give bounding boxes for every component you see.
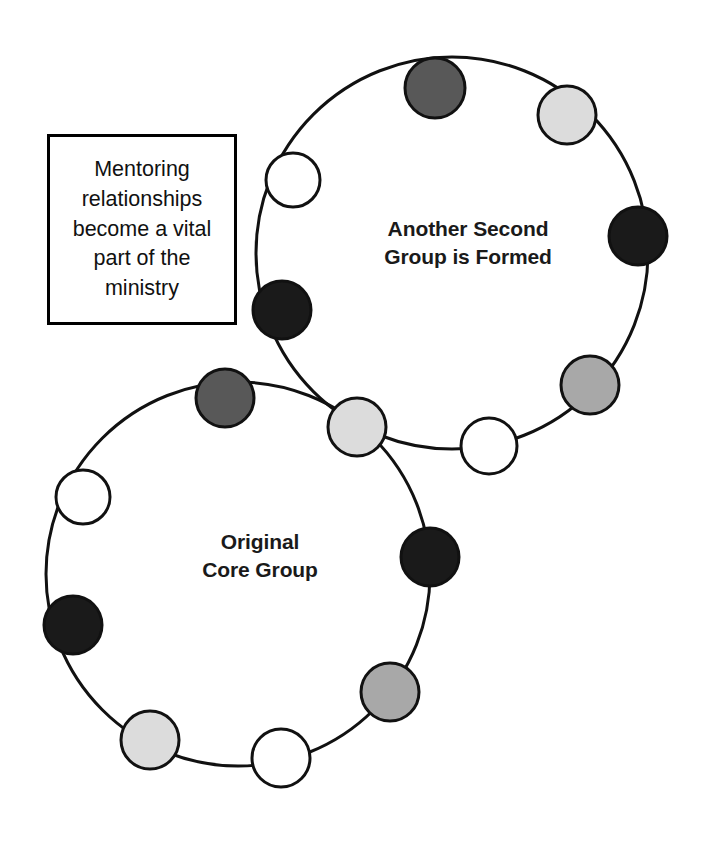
core-group-member-upper-left[interactable] <box>196 369 254 427</box>
second-group-member-lower-right[interactable] <box>561 356 619 414</box>
second-group-label: Another Second Group is Formed <box>360 215 576 271</box>
core-group-member-left[interactable] <box>56 470 110 524</box>
second-group-member-top[interactable] <box>405 58 465 118</box>
second-group-member-lower-left[interactable] <box>253 281 311 339</box>
core-group-member-right[interactable] <box>401 528 459 586</box>
caption-box: Mentoring relationships become a vital p… <box>47 134 237 325</box>
second-group-member-bottom[interactable] <box>461 418 517 474</box>
diagram-root: Mentoring relationships become a vital p… <box>0 0 703 842</box>
second-group-member-upper-right[interactable] <box>538 86 596 144</box>
core-group-member-lower-left[interactable] <box>44 596 102 654</box>
second-group-member-left[interactable] <box>266 153 320 207</box>
core-group-label: Original Core Group <box>165 528 355 584</box>
groups-diagram <box>0 0 703 842</box>
core-group-member-bottom-right[interactable] <box>361 663 419 721</box>
core-group-member-bottom[interactable] <box>252 729 310 787</box>
caption-text: Mentoring relationships become a vital p… <box>65 155 220 303</box>
second-group-member-right[interactable] <box>609 207 667 265</box>
shared-bridge-member[interactable] <box>328 398 386 456</box>
core-group-member-bottom-left[interactable] <box>121 711 179 769</box>
